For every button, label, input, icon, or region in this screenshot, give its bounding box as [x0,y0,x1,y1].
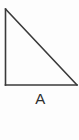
triangle-diagram [0,0,79,140]
diagram-background [0,0,79,140]
shape-label-a: A [1,91,79,106]
figure-container: A [0,0,79,140]
